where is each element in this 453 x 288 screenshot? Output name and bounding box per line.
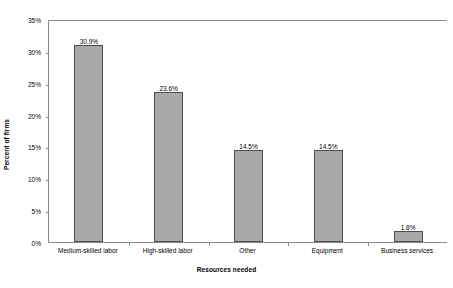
x-axis-category-label: High-skilled labor	[143, 247, 193, 254]
x-axis-tick-mark	[288, 242, 289, 246]
bar	[234, 150, 263, 242]
x-axis-category-label: Other	[239, 247, 255, 254]
y-axis-title-text: Percent of firms	[4, 118, 11, 169]
bar-value-label: 1.8%	[401, 224, 416, 231]
bar	[74, 45, 103, 242]
plot-area: 30.9%23.6%14.5%14.5%1.8%	[48, 20, 447, 243]
y-axis-tick-mark	[46, 148, 49, 149]
y-axis-tick-label: 20%	[28, 112, 41, 119]
bar-value-label: 30.9%	[80, 38, 98, 45]
x-axis-title: Resources needed	[0, 266, 453, 273]
y-axis-tick-label: 0%	[32, 240, 41, 247]
y-axis-tick-label: 30%	[28, 48, 41, 55]
y-axis-tick-mark	[46, 85, 49, 86]
bar-value-label: 14.5%	[319, 143, 337, 150]
bar	[314, 150, 343, 242]
bar	[394, 231, 423, 242]
y-axis-tick-label: 10%	[28, 176, 41, 183]
y-axis-tick-mark	[46, 212, 49, 213]
y-axis-tick-label: 35%	[28, 17, 41, 24]
y-axis-title: Percent of firms	[0, 0, 14, 288]
x-axis-category-label: Business services	[381, 247, 433, 254]
y-axis-tick-label: 25%	[28, 80, 41, 87]
bar-chart: Percent of firms 0%5%10%15%20%25%30%35% …	[0, 0, 453, 288]
y-axis-tick-mark	[46, 180, 49, 181]
y-axis-tick-mark	[46, 117, 49, 118]
bar-value-label: 23.6%	[159, 85, 177, 92]
y-axis-tick-label: 5%	[32, 208, 41, 215]
y-axis-tick-mark	[46, 53, 49, 54]
x-axis-tick-mark	[209, 242, 210, 246]
bar-value-label: 14.5%	[239, 143, 257, 150]
bar	[154, 92, 183, 242]
x-axis-tick-mark	[129, 242, 130, 246]
x-axis-tick-mark	[368, 242, 369, 246]
y-axis-tick-labels: 0%5%10%15%20%25%30%35%	[14, 0, 44, 288]
x-axis-category-label: Equipment	[312, 247, 343, 254]
x-axis-category-label: Medium-skilled labor	[58, 247, 118, 254]
y-axis-tick-label: 15%	[28, 144, 41, 151]
